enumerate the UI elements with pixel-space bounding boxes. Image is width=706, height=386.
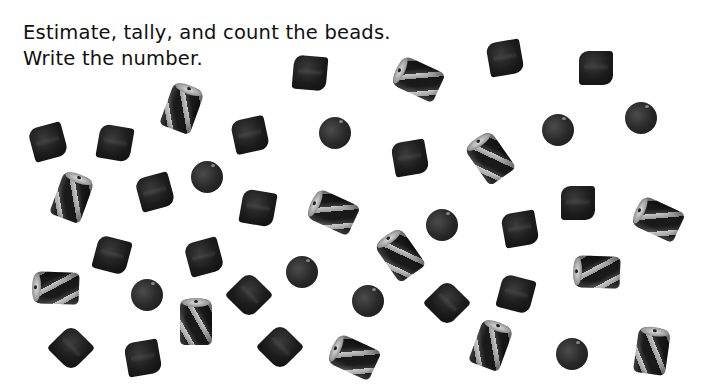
bicone-bead-icon (495, 273, 537, 315)
bicone-bead-icon (561, 186, 595, 220)
bicone-bead-icon (91, 234, 133, 276)
bicone-bead-icon (134, 171, 176, 213)
bicone-bead-icon (27, 121, 69, 163)
bicone-bead-icon (390, 138, 429, 177)
cylinder-bead-icon (326, 333, 381, 381)
cylinder-bead-icon (468, 318, 514, 372)
bicone-bead-icon (183, 236, 225, 278)
bicone-bead-icon (423, 279, 471, 327)
instructions: Estimate, tally, and count the beads. Wr… (23, 20, 391, 72)
cylinder-bead-icon (630, 195, 685, 243)
bicone-bead-icon (500, 209, 539, 248)
bicone-bead-icon (47, 324, 95, 372)
bicone-bead-icon (292, 55, 329, 92)
cylinder-bead-icon (464, 130, 517, 186)
cylinder-bead-icon (180, 299, 212, 345)
bicone-bead-icon (95, 123, 134, 162)
round-bead-icon (556, 338, 588, 370)
bicone-bead-icon (238, 188, 277, 227)
round-bead-icon (426, 209, 458, 241)
round-bead-icon (352, 285, 384, 317)
cylinder-bead-icon (159, 81, 205, 135)
round-bead-icon (191, 161, 223, 193)
round-bead-icon (319, 117, 351, 149)
bicone-bead-icon (485, 38, 524, 77)
cylinder-bead-icon (305, 188, 360, 236)
cylinder-bead-icon (374, 227, 427, 283)
bicone-bead-icon (123, 338, 162, 377)
cylinder-bead-icon (390, 55, 445, 103)
instruction-line-2: Write the number. (23, 46, 391, 72)
round-bead-icon (286, 256, 318, 288)
round-bead-icon (625, 102, 657, 134)
bicone-bead-icon (256, 323, 304, 371)
cylinder-bead-icon (633, 326, 671, 376)
cylinder-bead-icon (32, 271, 79, 305)
cylinder-bead-icon (573, 255, 620, 289)
cylinder-bead-icon (49, 170, 95, 224)
round-bead-icon (131, 279, 163, 311)
instruction-line-1: Estimate, tally, and count the beads. (23, 20, 391, 46)
round-bead-icon (542, 114, 574, 146)
bicone-bead-icon (579, 51, 613, 85)
bicone-bead-icon (230, 115, 270, 155)
bicone-bead-icon (225, 271, 273, 319)
